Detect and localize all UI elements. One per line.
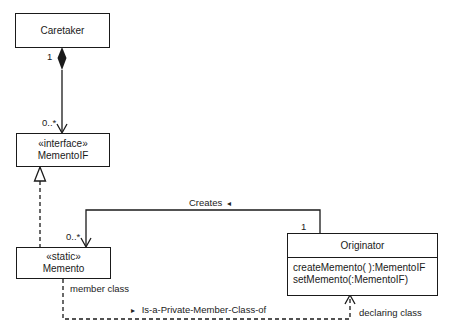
direction-arrow-icon: ▸ — [131, 306, 135, 315]
multiplicity-label: 0..* — [66, 231, 80, 242]
composition-diamond-icon — [58, 47, 67, 70]
realization-triangle-icon — [35, 167, 46, 181]
class-memento[interactable]: «static» Memento — [16, 247, 111, 279]
stereotype-label: «interface» — [38, 138, 87, 150]
private-member-label: Is-a-Private-Member-Class-of — [142, 304, 267, 315]
class-mementoif[interactable]: «interface» MementoIF — [16, 133, 110, 167]
multiplicity-label: 0..* — [42, 117, 56, 128]
operations-compartment: createMemento( ):MementoIF setMemento(:M… — [288, 258, 437, 286]
class-name: Originator — [288, 234, 437, 258]
class-caretaker[interactable]: Caretaker — [15, 13, 110, 48]
dependency-label: ▸ Is-a-Private-Member-Class-of — [131, 304, 266, 316]
multiplicity-label: 1 — [301, 221, 306, 232]
direction-arrow-icon: ◂ — [227, 199, 231, 208]
class-name: Memento — [43, 263, 85, 275]
creates-label: Creates — [189, 197, 222, 208]
role-label: member class — [70, 283, 129, 294]
operation: setMemento(:MementoIF) — [288, 274, 437, 286]
role-label: declaring class — [359, 307, 422, 318]
stereotype-label: «static» — [46, 251, 80, 263]
multiplicity-label: 1 — [47, 51, 52, 62]
class-name: Caretaker — [41, 25, 85, 37]
class-name: MementoIF — [38, 150, 89, 162]
creates-line — [86, 210, 320, 246]
association-label: Creates ◂ — [189, 197, 231, 209]
class-originator[interactable]: Originator createMemento( ):MementoIF se… — [287, 233, 438, 296]
operation: createMemento( ):MementoIF — [288, 262, 437, 274]
